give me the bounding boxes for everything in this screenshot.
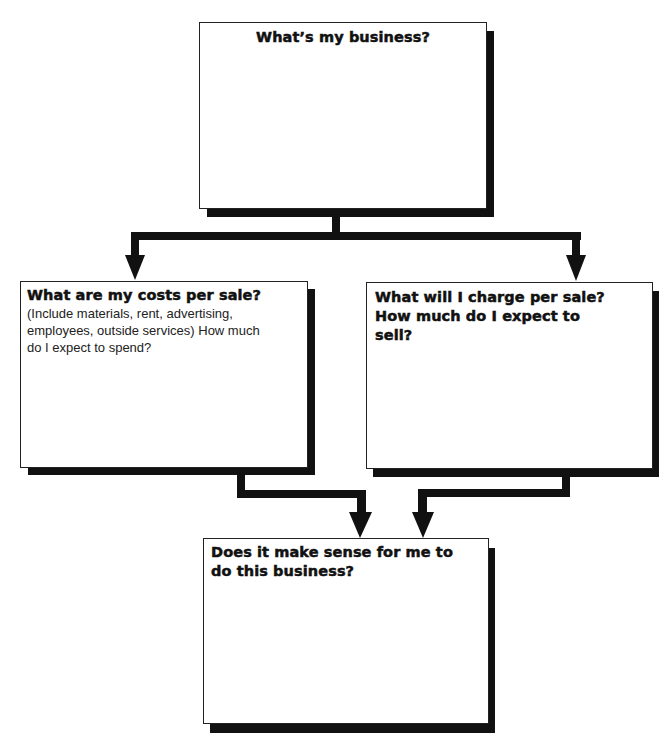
- connector-top-stem: [332, 214, 340, 238]
- box-costs: What are my costs per sale? (Include mat…: [20, 281, 308, 468]
- box-decision: Does it make sense for me to do this bus…: [203, 538, 489, 724]
- node-title: What are my costs per sale?: [27, 286, 301, 305]
- box-revenue: What will I charge per sale? How much do…: [366, 282, 653, 469]
- connector-top-bar: [131, 232, 581, 240]
- arrow-down-icon: [349, 512, 372, 538]
- node-title: What’s my business?: [200, 28, 486, 47]
- connector-left-stem: [131, 232, 139, 260]
- node-title: What will I charge per sale? How much do…: [375, 288, 615, 345]
- connector-right-stem: [572, 232, 580, 260]
- arrow-down-icon: [412, 512, 434, 538]
- node-title: Does it make sense for me to do this bus…: [211, 543, 466, 581]
- arrow-down-icon: [125, 255, 145, 280]
- arrow-down-icon: [566, 255, 586, 281]
- node-body: (Include materials, rent, advertising, e…: [27, 305, 267, 356]
- box-business: What’s my business?: [199, 22, 487, 209]
